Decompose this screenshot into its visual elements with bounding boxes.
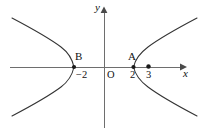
tick-label-2: 2: [130, 70, 135, 81]
origin-label: O: [107, 70, 115, 81]
y-axis-label: y: [95, 2, 100, 13]
tick-label-minus-2: −2: [76, 70, 87, 81]
point-label-3: 3: [146, 70, 151, 81]
x-axis-label: x: [183, 68, 188, 79]
figure-canvas: [0, 0, 198, 135]
hyperbola-figure: y x O A B 2 −2 3: [0, 0, 198, 135]
y-axis-arrow: [101, 7, 108, 14]
vertex-a-label: A: [128, 51, 136, 62]
vertex-b-label: B: [75, 51, 82, 62]
